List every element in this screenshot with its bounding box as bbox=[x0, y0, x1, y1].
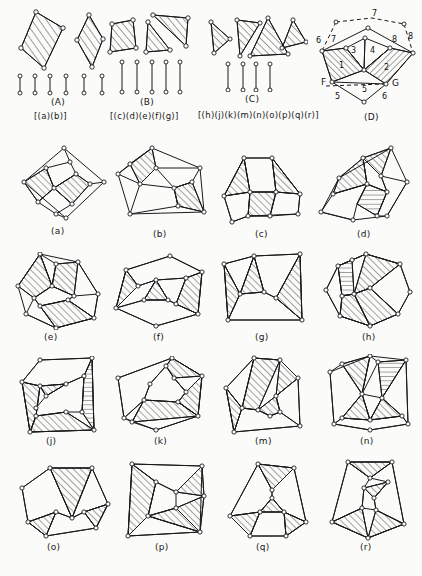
figure-j bbox=[16, 356, 108, 436]
edge-number-7-left: 7 bbox=[331, 35, 336, 44]
group-B-figure bbox=[100, 6, 198, 98]
figure-o bbox=[16, 462, 112, 542]
edge-number-5-mid: 5 bbox=[362, 85, 367, 94]
figure-label-h: (h) bbox=[362, 332, 376, 342]
figure-label-e: (e) bbox=[44, 332, 57, 342]
figure-label-n: (n) bbox=[360, 436, 374, 446]
figure-f bbox=[110, 252, 208, 330]
figure-g bbox=[216, 250, 310, 330]
group-C-label: (C) bbox=[245, 94, 259, 104]
figure-m bbox=[220, 354, 312, 436]
region-number-4: 4 bbox=[370, 46, 375, 55]
figure-e bbox=[12, 252, 108, 330]
figure-label-r: (r) bbox=[360, 542, 372, 552]
group-A-set-label: [(a)(b)] bbox=[34, 111, 67, 121]
edge-number-6-low: 6 bbox=[382, 92, 387, 101]
figure-label-b: (b) bbox=[153, 229, 167, 239]
figure-a bbox=[16, 144, 111, 224]
figure-label-j: (j) bbox=[46, 436, 56, 446]
figure-label-o: (o) bbox=[47, 542, 60, 552]
figure-p bbox=[118, 460, 210, 542]
vertex-label-F: F bbox=[321, 77, 326, 87]
figure-label-k: (k) bbox=[154, 436, 167, 446]
figure-label-q: (q) bbox=[256, 542, 270, 552]
figure-label-p: (p) bbox=[155, 542, 169, 552]
vertex-label-G: G bbox=[392, 78, 399, 88]
group-B-set-label: [(c)(d)(e)(f)(g)] bbox=[110, 111, 179, 121]
region-number-3: 3 bbox=[351, 46, 356, 55]
edge-number-5-low: 5 bbox=[335, 92, 340, 101]
figure-n bbox=[322, 354, 414, 436]
figure-c bbox=[218, 146, 310, 226]
edge-number-6-left: 6 bbox=[316, 36, 321, 45]
figure-label-m: (m) bbox=[255, 436, 272, 446]
figure-q bbox=[220, 460, 316, 542]
group-D-figure: 1 2 3 4 7 7 8 8 6 5 5 6 F G bbox=[312, 6, 420, 114]
figure-label-a: (a) bbox=[51, 226, 64, 236]
figure-d bbox=[315, 144, 415, 226]
edge-number-7-top: 7 bbox=[372, 9, 377, 18]
figure-plate: (A) [(a)(b)] bbox=[0, 0, 422, 576]
figure-label-g: (g) bbox=[255, 332, 269, 342]
figure-k bbox=[112, 356, 208, 436]
figure-label-c: (c) bbox=[255, 229, 268, 239]
figure-h bbox=[318, 250, 414, 330]
figure-r bbox=[320, 458, 414, 542]
group-A-label: (A) bbox=[51, 97, 65, 107]
figure-label-d: (d) bbox=[357, 229, 371, 239]
edge-number-8-outer: 8 bbox=[408, 32, 413, 41]
figure-b bbox=[112, 144, 209, 224]
region-number-2: 2 bbox=[384, 63, 389, 72]
group-C-figure bbox=[198, 6, 308, 92]
group-B-label: (B) bbox=[140, 97, 154, 107]
figure-label-f: (f) bbox=[153, 332, 164, 342]
group-D-label: (D) bbox=[364, 112, 379, 122]
edge-number-8-inner: 8 bbox=[392, 35, 397, 44]
group-C-set-label: [(h)(j)(k)(m)(n)(o)(p)(q)(r)] bbox=[198, 110, 319, 120]
region-number-1: 1 bbox=[339, 61, 344, 70]
